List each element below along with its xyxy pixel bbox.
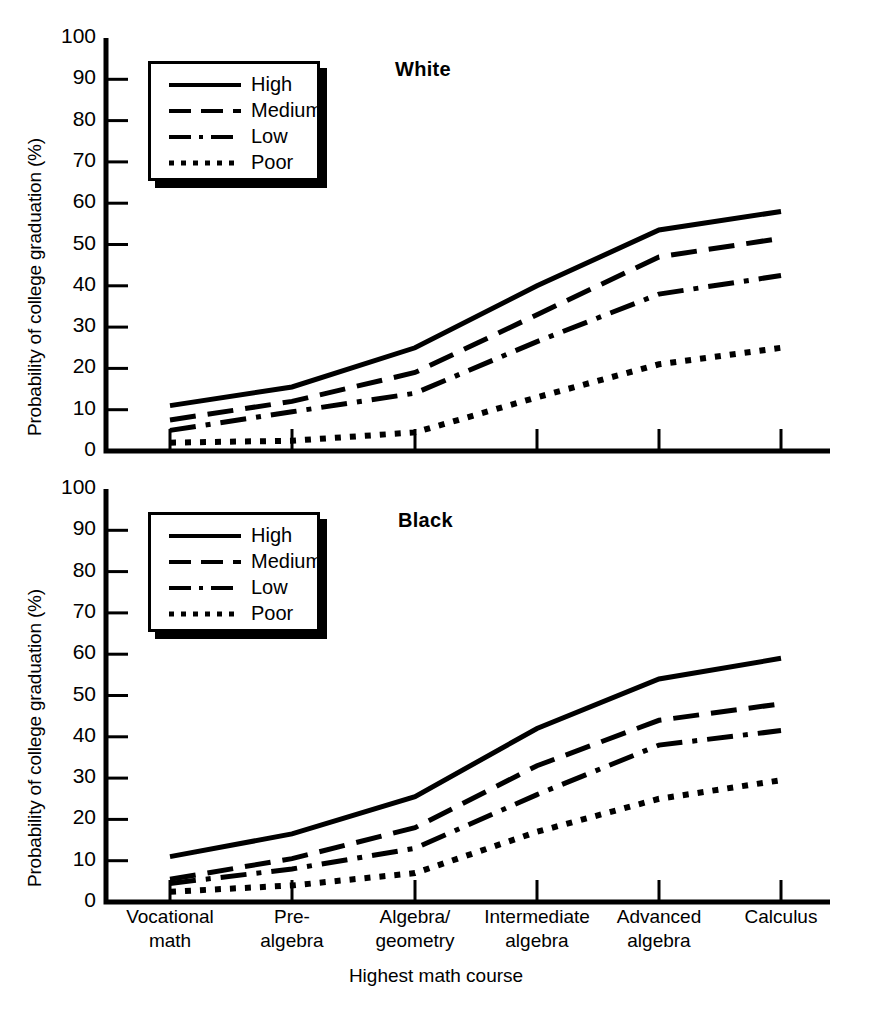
y-axis-tick-label: 0 — [44, 888, 96, 912]
y-axis-tick-label: 70 — [44, 148, 96, 172]
y-axis-tick-label: 40 — [44, 723, 96, 747]
y-axis-tick-label: 20 — [44, 354, 96, 378]
series-line-poor — [170, 348, 781, 443]
panel-title-black: Black — [398, 509, 453, 532]
y-axis-label: Probability of college graduation (%) — [24, 589, 46, 887]
x-tick-label-line1: Calculus — [701, 905, 861, 929]
legend-line-sample-high — [169, 82, 241, 86]
y-axis-tick-label: 60 — [44, 189, 96, 213]
y-axis-tick-label: 80 — [44, 558, 96, 582]
legend-label: Medium — [251, 550, 322, 572]
chart-panel-black: Probability of college graduation (%) 01… — [0, 451, 872, 921]
panel-title-white: White — [395, 58, 451, 81]
legend-label: High — [251, 73, 292, 95]
y-axis-tick-label: 10 — [44, 847, 96, 871]
legend-line-sample-low — [169, 134, 241, 138]
series-line-low — [170, 731, 781, 884]
legend-label: Poor — [251, 602, 293, 624]
legend-item-medium: Medium — [151, 99, 317, 121]
legend-item-high: High — [151, 524, 317, 546]
legend-label: High — [251, 524, 292, 546]
y-axis-tick-label: 80 — [44, 107, 96, 131]
y-axis-tick-label: 100 — [44, 475, 96, 499]
x-tick-label-line2: algebra — [579, 929, 739, 953]
legend-item-poor: Poor — [151, 602, 317, 624]
legend-label: Low — [251, 125, 288, 147]
legend-line-sample-medium — [169, 559, 241, 563]
y-axis-tick-label: 70 — [44, 599, 96, 623]
legend-label: Low — [251, 576, 288, 598]
legend-line-sample-poor — [169, 160, 241, 164]
y-axis-tick-label: 60 — [44, 640, 96, 664]
legend-item-low: Low — [151, 125, 317, 147]
y-axis-tick-label: 90 — [44, 65, 96, 89]
legend-item-poor: Poor — [151, 151, 317, 173]
series-line-medium — [170, 704, 781, 880]
legend-line-sample-medium — [169, 108, 241, 112]
legend-label: Poor — [251, 151, 293, 173]
series-line-high — [170, 212, 781, 406]
chart-panel-white: Probability of college graduation (%) 01… — [0, 0, 872, 480]
legend-line-sample-high — [169, 533, 241, 537]
y-axis-tick-label: 10 — [44, 396, 96, 420]
legend-white: HighMediumLowPoor — [148, 61, 320, 181]
legend-item-low: Low — [151, 576, 317, 598]
y-axis-tick-label: 50 — [44, 231, 96, 255]
y-axis-tick-label: 100 — [44, 24, 96, 48]
x-axis-tick-label: Calculus — [701, 905, 861, 929]
y-axis-tick-label: 50 — [44, 682, 96, 706]
legend-item-high: High — [151, 73, 317, 95]
y-axis-tick-label: 30 — [44, 313, 96, 337]
y-axis-tick-label: 20 — [44, 805, 96, 829]
legend-line-sample-poor — [169, 611, 241, 615]
legend-label: Medium — [251, 99, 322, 121]
y-axis-tick-label: 90 — [44, 516, 96, 540]
legend-black: HighMediumLowPoor — [148, 512, 320, 632]
x-axis-label: Highest math course — [0, 965, 872, 987]
y-axis-label: Probability of college graduation (%) — [24, 138, 46, 436]
legend-line-sample-low — [169, 585, 241, 589]
chart-figure: Probability of college graduation (%) 01… — [0, 0, 872, 1032]
y-axis-tick-label: 40 — [44, 272, 96, 296]
series-line-high — [170, 658, 781, 856]
y-axis-tick-label: 30 — [44, 764, 96, 788]
legend-item-medium: Medium — [151, 550, 317, 572]
